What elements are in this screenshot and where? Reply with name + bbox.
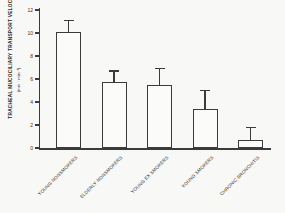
error-bar-stem <box>250 127 251 140</box>
bar <box>147 85 172 148</box>
category-label: CHRONIC BRONCHITIS <box>218 155 260 197</box>
bar-chart-figure: TRACHEAL MUCOCILIARY TRANSPORT VELOCITY … <box>0 0 285 213</box>
bar <box>193 109 218 148</box>
y-tick-label: 10 <box>21 31 33 36</box>
error-bar-stem <box>204 91 205 109</box>
error-bar-stem <box>159 69 160 85</box>
bar <box>238 140 263 148</box>
y-tick-mark <box>35 78 40 79</box>
y-tick-label: 4 <box>21 100 33 105</box>
y-tick-label: 0 <box>21 146 33 151</box>
y-axis-units: (mm · min⁻¹) <box>15 68 20 93</box>
error-bar-cap <box>155 68 165 69</box>
y-tick-label: 12 <box>21 8 33 13</box>
error-bar-stem <box>113 71 114 83</box>
y-tick-mark <box>35 147 40 148</box>
error-bar-stem <box>68 20 69 32</box>
y-tick-label: 2 <box>21 123 33 128</box>
error-bar-cap <box>109 70 119 71</box>
y-tick-mark <box>35 9 40 10</box>
error-bar-cap <box>246 127 256 128</box>
y-tick-mark <box>35 55 40 56</box>
error-bar-cap <box>64 20 74 21</box>
y-tick-mark <box>35 124 40 125</box>
bar <box>56 32 81 148</box>
y-tick-mark <box>35 101 40 102</box>
x-axis-line <box>39 148 271 150</box>
y-tick-label: 6 <box>21 77 33 82</box>
bar <box>102 82 127 148</box>
error-bar-cap <box>200 90 210 91</box>
y-tick-mark <box>35 32 40 33</box>
category-label: YOUNG EX SMOKERS <box>130 155 170 195</box>
y-tick-label: 8 <box>21 54 33 59</box>
category-label: YOUNG NONSMOKERS <box>37 155 79 197</box>
category-label: ELDERLY NONSMOKERS <box>79 155 123 199</box>
y-axis-title: TRACHEAL MUCOCILIARY TRANSPORT VELOCITY <box>8 0 13 119</box>
category-label: YOUNG SMOKERS <box>181 155 215 189</box>
